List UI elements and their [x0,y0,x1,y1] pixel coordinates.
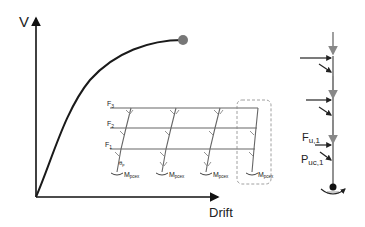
floor-force-3: F3 [107,100,114,109]
rotation-label: θp [119,160,125,167]
pushover-diagram: V Drift F3 F2 F1 θp M [0,0,365,227]
collapse-point-marker [178,35,188,45]
pushover-chart: V Drift [19,13,233,220]
highlighted-column-box [237,100,271,184]
column-free-body: Fu,1 Puc,1 [300,32,345,194]
base-pin [330,184,337,191]
x-axis-label: Drift [209,205,233,220]
moment-frame [110,108,258,175]
pushover-curve [36,40,183,197]
horizontal-force-label: Fu,1 [302,131,320,145]
floor-force-2: F2 [107,120,114,129]
base-moment-1: Mpcex [124,171,140,179]
y-axis-label: V [19,13,29,30]
base-moment-2: Mpcex [169,171,185,179]
diagonal-force-arrow-3 [319,64,331,72]
diagonal-force-arrow-2 [319,107,331,115]
base-moment-4: Mpcex [258,171,274,179]
base-moment-3: Mpcex [213,171,229,179]
floor-force-1: F1 [105,141,112,150]
axial-force-label: Puc,1 [301,153,324,167]
